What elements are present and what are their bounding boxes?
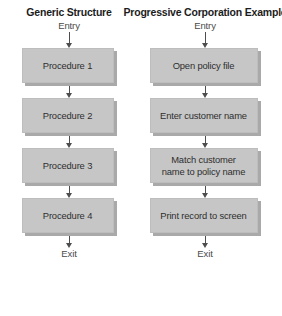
flow-column-generic: Generic Structure Entry Procedure 1 Proc… [0, 0, 128, 316]
column-title-generic: Generic Structure [26, 6, 111, 18]
node-label: Print record to screen [156, 210, 250, 222]
node-label: Procedure 2 [39, 110, 96, 122]
node-body: Print record to screen [150, 198, 258, 233]
process-node-generic-1[interactable]: Procedure 1 [22, 48, 114, 83]
arrow-entry-generic [65, 32, 74, 48]
exit-label-progressive: Exit [197, 248, 212, 260]
process-node-progressive-2[interactable]: Enter customer name [150, 98, 258, 133]
node-label: Open policy file [169, 60, 239, 72]
entry-label-generic: Entry [58, 20, 80, 32]
process-node-generic-3[interactable]: Procedure 3 [22, 148, 114, 183]
node-body: Procedure 4 [22, 198, 114, 233]
node-body: Open policy file [150, 48, 258, 83]
node-label: Procedure 3 [39, 160, 96, 172]
entry-label-progressive: Entry [194, 20, 216, 32]
process-node-generic-2[interactable]: Procedure 2 [22, 98, 114, 133]
node-body: Match customername to policy name [150, 148, 258, 183]
arrow-entry-progressive [201, 32, 210, 48]
process-node-progressive-1[interactable]: Open policy file [150, 48, 258, 83]
node-label: Procedure 4 [39, 210, 96, 222]
node-label: Enter customer name [156, 110, 251, 122]
flow-column-progressive: Progressive Corporation Example Entry Op… [128, 0, 282, 316]
node-label: Procedure 1 [39, 60, 96, 72]
column-title-progressive: Progressive Corporation Example [123, 6, 282, 18]
process-node-generic-4[interactable]: Procedure 4 [22, 198, 114, 233]
node-body: Procedure 3 [22, 148, 114, 183]
exit-label-generic: Exit [61, 248, 76, 260]
arrow-head [66, 243, 72, 248]
arrow-head [202, 243, 208, 248]
node-body: Enter customer name [150, 98, 258, 133]
flowchart-diagram: Generic Structure Entry Procedure 1 Proc… [0, 0, 282, 316]
node-body: Procedure 2 [22, 98, 114, 133]
node-body: Procedure 1 [22, 48, 114, 83]
process-node-progressive-4[interactable]: Print record to screen [150, 198, 258, 233]
node-label: Match customername to policy name [158, 154, 250, 177]
process-node-progressive-3[interactable]: Match customername to policy name [150, 148, 258, 183]
